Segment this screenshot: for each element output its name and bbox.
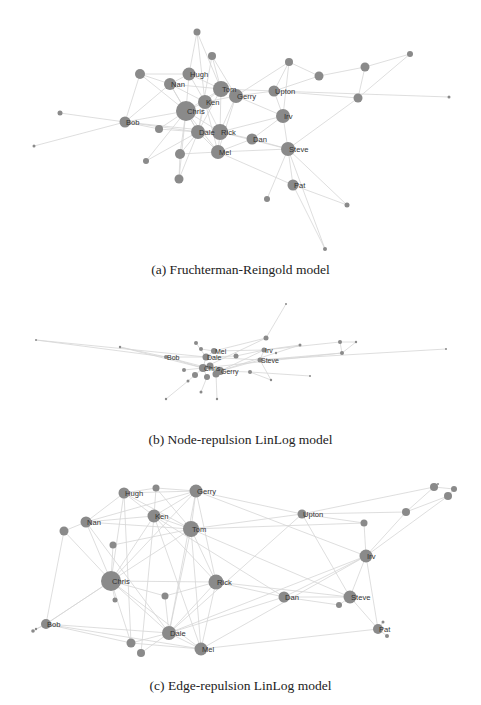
- graph-edge: [165, 582, 216, 596]
- graph-edge: [125, 74, 140, 122]
- graph-edge: [218, 152, 293, 185]
- graph-edge: [64, 531, 111, 581]
- graph-node: [323, 247, 327, 251]
- graph-edge: [201, 556, 366, 649]
- graph-node: [264, 196, 270, 202]
- graph-edge: [288, 98, 358, 149]
- node-label: Ken: [155, 512, 169, 521]
- graph-edge: [111, 581, 201, 649]
- node-label: Chris: [112, 577, 130, 586]
- graph-edge: [216, 374, 217, 399]
- graph-edge: [169, 491, 196, 633]
- graph-node: [162, 593, 169, 600]
- node-label: Irv: [284, 112, 293, 121]
- graph-edge: [179, 111, 186, 179]
- node-label: Mel: [202, 645, 215, 654]
- graph-edge: [169, 556, 366, 633]
- graph-node: [451, 486, 457, 492]
- graph-node: [445, 348, 447, 350]
- edges: [36, 304, 446, 399]
- graph-node: [35, 628, 37, 630]
- graph-node: [361, 63, 370, 72]
- node-label: Steve: [351, 593, 370, 602]
- graph-edge: [260, 349, 446, 360]
- graph-node: [153, 485, 160, 492]
- graph-node: [275, 352, 277, 354]
- graph-edge: [350, 556, 366, 597]
- graph-node: [437, 483, 439, 485]
- graph-node: [194, 29, 201, 36]
- graph-edge: [169, 597, 284, 633]
- graph-node: [137, 649, 145, 657]
- graph-node: [182, 368, 186, 372]
- graph-panel-a: HughNanTomGerryKenChrisBobDaleRickMelDan…: [0, 0, 481, 260]
- graph-edge: [46, 531, 64, 624]
- graph-node: [444, 492, 452, 500]
- node-repulsion-linlog-graph: BobMelDaleIrvSteveChrisGerry: [0, 285, 481, 430]
- graph-node: [135, 69, 145, 79]
- graph-edge: [169, 529, 191, 633]
- graph-node: [155, 125, 163, 133]
- graph-node: [113, 598, 118, 603]
- graph-panel-c: HughGerryKenNanTomUptonIrvChrisRickDanSt…: [0, 472, 481, 672]
- graph-node: [204, 374, 210, 380]
- node-label: Rick: [217, 578, 232, 587]
- graph-edge: [124, 493, 131, 643]
- graph-node: [58, 111, 63, 116]
- node-label: Nan: [87, 518, 101, 527]
- graph-node: [448, 96, 451, 99]
- graph-edge: [141, 516, 154, 653]
- node-label: Gerry: [221, 368, 239, 376]
- node-label: Hugh: [125, 489, 143, 498]
- graph-node: [216, 398, 218, 400]
- edges: [34, 32, 449, 249]
- node-label: Ken: [206, 98, 220, 107]
- node-label: Bob: [47, 620, 61, 629]
- graph-node: [33, 145, 36, 148]
- graph-edge: [60, 113, 125, 122]
- graph-node: [345, 203, 350, 208]
- graph-edge: [288, 149, 347, 205]
- node-label: Dan: [253, 135, 267, 144]
- graph-edge: [342, 342, 356, 353]
- graph-panel-b: BobMelDaleIrvSteveChrisGerry: [0, 285, 481, 430]
- graph-node: [175, 175, 184, 184]
- graph-node: [175, 149, 185, 159]
- graph-node: [402, 508, 410, 516]
- node-label: Bob: [126, 118, 140, 127]
- graph-edge: [111, 493, 124, 581]
- graph-edge: [264, 342, 340, 350]
- graph-edge: [289, 62, 319, 76]
- graph-edge: [120, 347, 203, 368]
- graph-node: [309, 375, 311, 377]
- edges: [33, 487, 454, 653]
- nodes: BobMelDaleIrvSteveChrisGerry: [35, 303, 447, 400]
- graph-node: [382, 621, 385, 624]
- graph-node: [200, 391, 203, 394]
- nodes: HughNanTomGerryKenChrisBobDaleRickMelDan…: [33, 29, 451, 252]
- graph-node: [315, 72, 324, 81]
- graph-node: [361, 520, 368, 527]
- graph-node: [234, 354, 239, 359]
- graph-node: [194, 341, 198, 345]
- graph-edge: [358, 54, 410, 98]
- graph-node: [110, 542, 117, 549]
- fruchterman-reingold-graph: HughNanTomGerryKenChrisBobDaleRickMelDan…: [0, 0, 481, 260]
- graph-node: [248, 370, 252, 374]
- graph-edge: [146, 132, 198, 161]
- graph-edge: [319, 67, 365, 76]
- node-label: Steve: [289, 145, 308, 154]
- graph-node: [119, 346, 121, 348]
- graph-edge: [365, 54, 410, 67]
- graph-node: [285, 58, 293, 66]
- graph-edge: [406, 487, 434, 512]
- node-label: Irv: [367, 552, 376, 561]
- graph-node: [354, 94, 363, 103]
- graph-node: [208, 52, 216, 60]
- edge-repulsion-linlog-graph: HughGerryKenNanTomUptonIrvChrisRickDanSt…: [0, 472, 481, 672]
- node-label: Tom: [222, 85, 236, 94]
- graph-edge: [36, 340, 166, 357]
- graph-node: [285, 303, 287, 305]
- graph-edge: [36, 340, 206, 357]
- node-label: Nan: [171, 80, 185, 89]
